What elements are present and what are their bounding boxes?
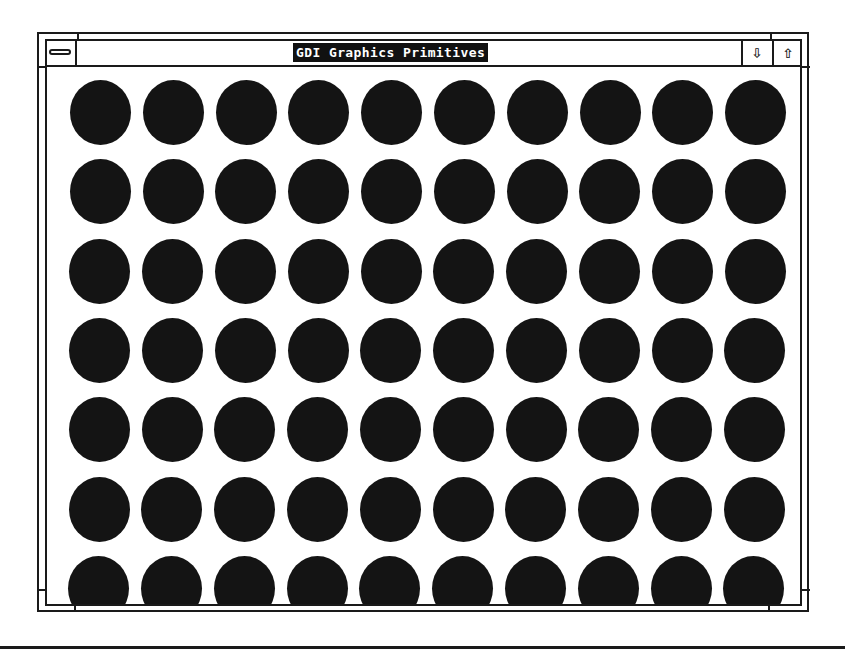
filled-ellipse bbox=[724, 318, 785, 383]
filled-ellipse bbox=[214, 556, 275, 604]
filled-ellipse bbox=[288, 239, 349, 304]
filled-ellipse bbox=[434, 80, 495, 145]
resize-corner-tick[interactable] bbox=[37, 589, 45, 591]
filled-ellipse bbox=[578, 556, 639, 604]
resize-corner-tick[interactable] bbox=[768, 606, 770, 612]
filled-ellipse bbox=[360, 318, 421, 383]
filled-ellipse bbox=[433, 239, 494, 304]
filled-ellipse bbox=[69, 397, 130, 462]
filled-ellipse bbox=[288, 80, 349, 145]
filled-ellipse bbox=[651, 477, 712, 542]
filled-ellipse bbox=[725, 239, 786, 304]
filled-ellipse bbox=[214, 477, 275, 542]
filled-ellipse bbox=[216, 80, 277, 145]
filled-ellipse bbox=[505, 556, 566, 604]
filled-ellipse bbox=[141, 477, 202, 542]
filled-ellipse bbox=[69, 477, 130, 542]
filled-ellipse bbox=[141, 556, 202, 604]
filled-ellipse bbox=[68, 556, 129, 604]
filled-ellipse bbox=[505, 477, 566, 542]
filled-ellipse bbox=[725, 80, 786, 145]
filled-ellipse bbox=[725, 159, 786, 224]
maximize-button[interactable]: ⇧ bbox=[772, 39, 802, 65]
filled-ellipse bbox=[215, 318, 276, 383]
filled-ellipse bbox=[432, 556, 493, 604]
title-bar[interactable]: GDI Graphics Primitives ⇩ ⇧ bbox=[45, 39, 802, 67]
filled-ellipse bbox=[288, 318, 349, 383]
filled-ellipse bbox=[433, 318, 494, 383]
minimize-button[interactable]: ⇩ bbox=[741, 39, 771, 65]
filled-ellipse bbox=[142, 239, 203, 304]
filled-ellipse bbox=[142, 318, 203, 383]
resize-corner-tick[interactable] bbox=[802, 589, 810, 591]
filled-ellipse bbox=[287, 397, 348, 462]
filled-ellipse bbox=[433, 477, 494, 542]
filled-ellipse bbox=[506, 239, 567, 304]
filled-ellipse bbox=[724, 397, 785, 462]
arrow-down-icon: ⇩ bbox=[752, 42, 762, 62]
filled-ellipse bbox=[724, 477, 785, 542]
filled-ellipse bbox=[142, 397, 203, 462]
resize-corner-tick[interactable] bbox=[74, 606, 76, 612]
filled-ellipse bbox=[361, 159, 422, 224]
filled-ellipse bbox=[70, 80, 131, 145]
filled-ellipse bbox=[214, 397, 275, 462]
filled-ellipse bbox=[506, 318, 567, 383]
filled-ellipse bbox=[143, 80, 204, 145]
filled-ellipse bbox=[579, 159, 640, 224]
filled-ellipse bbox=[434, 159, 495, 224]
filled-ellipse bbox=[578, 477, 639, 542]
resize-corner-tick[interactable] bbox=[77, 32, 79, 39]
filled-ellipse bbox=[287, 477, 348, 542]
filled-ellipse bbox=[506, 397, 567, 462]
arrow-up-icon: ⇧ bbox=[783, 42, 793, 62]
filled-ellipse bbox=[652, 318, 713, 383]
filled-ellipse bbox=[143, 159, 204, 224]
filled-ellipse bbox=[361, 239, 422, 304]
filled-ellipse bbox=[651, 556, 712, 604]
resize-corner-tick[interactable] bbox=[802, 66, 810, 68]
client-area[interactable] bbox=[47, 67, 800, 604]
resize-corner-tick[interactable] bbox=[770, 32, 772, 39]
filled-ellipse bbox=[579, 239, 640, 304]
filled-ellipse bbox=[580, 80, 641, 145]
window-title: GDI Graphics Primitives bbox=[293, 43, 488, 62]
filled-ellipse bbox=[652, 80, 713, 145]
filled-ellipse bbox=[215, 159, 276, 224]
resize-corner-tick[interactable] bbox=[37, 66, 45, 68]
system-menu-button[interactable] bbox=[45, 39, 77, 65]
filled-ellipse bbox=[70, 159, 131, 224]
filled-ellipse bbox=[360, 397, 421, 462]
filled-ellipse bbox=[215, 239, 276, 304]
filled-ellipse bbox=[69, 318, 130, 383]
filled-ellipse bbox=[507, 80, 568, 145]
filled-ellipse bbox=[69, 239, 130, 304]
filled-ellipse bbox=[359, 556, 420, 604]
filled-ellipse bbox=[287, 556, 348, 604]
filled-ellipse bbox=[507, 159, 568, 224]
system-menu-bar-icon bbox=[49, 49, 71, 55]
filled-ellipse bbox=[723, 556, 784, 604]
filled-ellipse bbox=[578, 397, 639, 462]
filled-ellipse bbox=[288, 159, 349, 224]
filled-ellipse bbox=[651, 397, 712, 462]
filled-ellipse bbox=[579, 318, 640, 383]
filled-ellipse bbox=[652, 239, 713, 304]
screen-bottom-divider bbox=[0, 646, 845, 649]
filled-ellipse bbox=[360, 477, 421, 542]
filled-ellipse bbox=[652, 159, 713, 224]
filled-ellipse bbox=[361, 80, 422, 145]
filled-ellipse bbox=[433, 397, 494, 462]
